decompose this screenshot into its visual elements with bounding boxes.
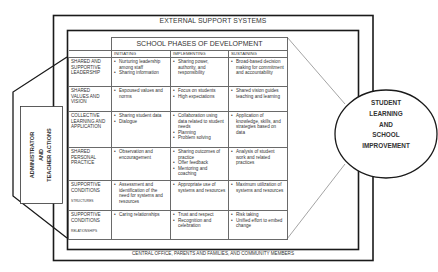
- outcome-label: STUDENT LEARNING AND SCHOOL IMPROVEMENT: [336, 98, 436, 152]
- admin-line-1: ADMINISTRATOR: [28, 107, 37, 203]
- table-corner-sub: [69, 51, 112, 58]
- phase-initiating: INITIATING: [112, 51, 171, 58]
- table-row: SUPPORTIVE CONDITIONS STRUCTURES Assessm…: [69, 181, 288, 211]
- cell-implementing: Focus on students High expectations: [171, 87, 229, 112]
- cell-initiating: Sharing student data Dialogue: [112, 112, 171, 148]
- cell-sustaining: Risk taking Unified effort to embed chan…: [229, 211, 288, 240]
- list-item: Caring relationships: [114, 212, 168, 218]
- list-item: Mentoring and coaching: [173, 166, 226, 177]
- list-item: Recognition and celebration: [173, 218, 226, 229]
- table-corner: [69, 38, 112, 51]
- row-label-text: SUPPORTIVE CONDITIONS: [71, 182, 101, 193]
- phase-sustaining: SUSTAINING: [229, 51, 288, 58]
- cell-implementing: Sharing outcomes of practice Offer feedb…: [171, 148, 229, 181]
- list-item: Shared vision guides teaching and learni…: [231, 88, 285, 99]
- table-row: SHARED PERSONAL PRACTICE Observation and…: [69, 148, 288, 181]
- list-item: High expectations: [173, 94, 226, 100]
- cell-initiating: Observation and encouragement: [112, 148, 171, 181]
- admin-label: ADMINISTRATOR AND TEACHER ACTIONS: [28, 107, 54, 203]
- cell-implementing: Appropriate use of systems and resources: [171, 181, 229, 211]
- list-item: Sharing information: [114, 70, 168, 76]
- list-item: Problem solving: [173, 135, 226, 141]
- phases-table: SCHOOL PHASES OF DEVELOPMENT INITIATING …: [68, 37, 288, 240]
- cell-sustaining: Broad-based decision making for commitme…: [229, 58, 288, 87]
- community-label: CENTRAL OFFICE, PARENTS AND FAMILIES, AN…: [53, 251, 373, 256]
- list-item: Collaboration using data related to stud…: [173, 113, 226, 130]
- list-item: Nurturing leadership among staff: [114, 59, 168, 70]
- list-item: Assessment and identification of the nee…: [114, 182, 168, 204]
- row-sublabel: RELATIONSHIPS: [71, 229, 109, 235]
- cell-implementing: Trust and respect Recognition and celebr…: [171, 211, 229, 240]
- row-label: COLLECTIVE LEARNING AND APPLICATION: [69, 112, 112, 148]
- row-label: SHARED PERSONAL PRACTICE: [69, 148, 112, 181]
- row-label-text: SUPPORTIVE CONDITIONS: [71, 212, 101, 223]
- phase-implementing: IMPLEMENTING: [171, 51, 229, 58]
- row-label: SUPPORTIVE CONDITIONS RELATIONSHIPS: [69, 211, 112, 240]
- cell-initiating: Espoused values and norms: [112, 87, 171, 112]
- outcome-line: IMPROVEMENT: [336, 141, 436, 152]
- outcome-line: AND: [336, 120, 436, 131]
- cell-initiating: Caring relationships: [112, 211, 171, 240]
- table-row: SUPPORTIVE CONDITIONS RELATIONSHIPS Cari…: [69, 211, 288, 240]
- table-row: SHARED AND SUPPORTIVE LEADERSHIP Nurturi…: [69, 58, 288, 87]
- cell-sustaining: Maximum utilization of systems and resou…: [229, 181, 288, 211]
- outcome-line: SCHOOL: [336, 130, 436, 141]
- list-item: Appropriate use of systems and resources: [173, 182, 226, 193]
- row-sublabel: STRUCTURES: [71, 199, 109, 205]
- admin-teacher-actions: ADMINISTRATOR AND TEACHER ACTIONS: [20, 107, 62, 203]
- table-row: COLLECTIVE LEARNING AND APPLICATION Shar…: [69, 112, 288, 148]
- cell-sustaining: Analysis of student work and related pra…: [229, 148, 288, 181]
- list-item: Maximum utilization of systems and resou…: [231, 182, 285, 193]
- list-item: Unified effort to embed change: [231, 218, 285, 229]
- list-item: Espoused values and norms: [114, 88, 168, 99]
- cell-implementing: Sharing power, authority, and responsibi…: [171, 58, 229, 87]
- row-label: SHARED VALUES AND VISION: [69, 87, 112, 112]
- list-item: Analysis of student work and related pra…: [231, 149, 285, 166]
- cell-implementing: Collaboration using data related to stud…: [171, 112, 229, 148]
- cell-sustaining: Application of knowledge, skills, and st…: [229, 112, 288, 148]
- row-label: SHARED AND SUPPORTIVE LEADERSHIP: [69, 58, 112, 87]
- list-item: Broad-based decision making for commitme…: [231, 59, 285, 76]
- admin-line-3: TEACHER ACTIONS: [45, 107, 54, 203]
- table-row: SHARED VALUES AND VISION Espoused values…: [69, 87, 288, 112]
- external-support-label: EXTERNAL SUPPORT SYSTEMS: [53, 17, 373, 24]
- outcome-line: LEARNING: [336, 109, 436, 120]
- admin-line-2: AND: [37, 107, 46, 203]
- row-label: SUPPORTIVE CONDITIONS STRUCTURES: [69, 181, 112, 211]
- list-item: Sharing power, authority, and responsibi…: [173, 59, 226, 76]
- list-item: Observation and encouragement: [114, 149, 168, 160]
- cell-sustaining: Shared vision guides teaching and learni…: [229, 87, 288, 112]
- cell-initiating: Assessment and identification of the nee…: [112, 181, 171, 211]
- outcome-line: STUDENT: [336, 98, 436, 109]
- table-title: SCHOOL PHASES OF DEVELOPMENT: [112, 38, 288, 51]
- list-item: Application of knowledge, skills, and st…: [231, 113, 285, 135]
- list-item: Sharing outcomes of practice: [173, 149, 226, 160]
- cell-initiating: Nurturing leadership among staff Sharing…: [112, 58, 171, 87]
- list-item: Dialogue: [114, 119, 168, 125]
